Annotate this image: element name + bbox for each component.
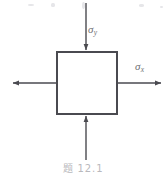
stress-element-square [57,52,117,114]
stress-element-figure: σy σx 题 12.1 [0,0,166,182]
figure-canvas [0,0,166,182]
